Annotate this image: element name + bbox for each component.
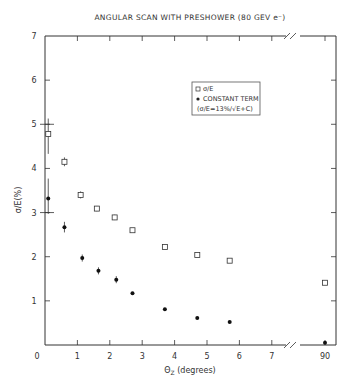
data-point-filled-circle xyxy=(46,196,50,200)
x-tick-label: 7 xyxy=(269,352,274,361)
chart-title: ANGULAR SCAN WITH PRESHOWER (80 GEV e⁻) xyxy=(94,13,285,22)
y-tick-label: 1 xyxy=(31,297,36,306)
data-point-open-square xyxy=(130,228,135,233)
data-point-filled-circle xyxy=(62,225,66,229)
legend-label-sigma: σ/E xyxy=(203,85,213,93)
legend-label-constant: CONSTANT TERM xyxy=(203,95,259,103)
data-point-open-square xyxy=(112,215,117,220)
x-tick-label: 6 xyxy=(237,352,242,361)
data-point-open-square xyxy=(227,258,232,263)
data-point-open-square xyxy=(62,159,67,164)
x-tick-labels: 0123456790 xyxy=(34,352,330,361)
y-tick-label: 3 xyxy=(31,209,36,218)
data-point-open-square xyxy=(46,131,51,136)
y-tick-label: 6 xyxy=(31,76,36,85)
x-axis-label: ΘZ (degrees) xyxy=(164,366,215,376)
x-tick-label: 4 xyxy=(172,352,177,361)
y-tick-label: 7 xyxy=(31,32,36,41)
data-point-open-square xyxy=(94,206,99,211)
data-point-filled-circle xyxy=(228,320,232,324)
legend-filled-circle-icon xyxy=(196,97,199,100)
axis-break-mark xyxy=(290,33,296,39)
data-point-open-square xyxy=(78,192,83,197)
data-point-filled-circle xyxy=(323,341,327,345)
x-tick-label: 0 xyxy=(34,352,39,361)
chart-canvas: ANGULAR SCAN WITH PRESHOWER (80 GEV e⁻) … xyxy=(0,0,347,390)
data-point-filled-circle xyxy=(195,316,199,320)
y-axis-label: σ/E(%) xyxy=(14,187,23,214)
data-point-open-square xyxy=(195,252,200,257)
data-series xyxy=(40,119,328,345)
y-tick-label: 4 xyxy=(31,164,36,173)
x-tick-label: 3 xyxy=(140,352,145,361)
data-point-open-square xyxy=(323,280,328,285)
x-tick-label: 1 xyxy=(75,352,80,361)
x-axis-label-rest: (degrees) xyxy=(175,366,216,375)
y-tick-label: 5 xyxy=(31,120,36,129)
plot-frame xyxy=(45,33,336,348)
axis-break-mark xyxy=(290,342,296,348)
x-tick-label: 90 xyxy=(320,352,330,361)
x-tick-label: 5 xyxy=(204,352,209,361)
data-point-filled-circle xyxy=(163,307,167,311)
legend-open-square-icon xyxy=(196,87,200,91)
data-point-open-square xyxy=(162,245,167,250)
axis-ticks xyxy=(45,36,336,345)
data-point-filled-circle xyxy=(96,269,100,273)
y-tick-label: 2 xyxy=(31,253,36,262)
legend: σ/E CONSTANT TERM (σ/E=13%/√E+C) xyxy=(192,82,260,115)
data-point-filled-circle xyxy=(114,278,118,282)
y-tick-labels: 1234567 xyxy=(31,32,36,306)
x-tick-label: 2 xyxy=(107,352,112,361)
data-point-filled-circle xyxy=(80,256,84,260)
data-point-filled-circle xyxy=(130,291,134,295)
legend-label-formula: (σ/E=13%/√E+C) xyxy=(197,105,253,113)
